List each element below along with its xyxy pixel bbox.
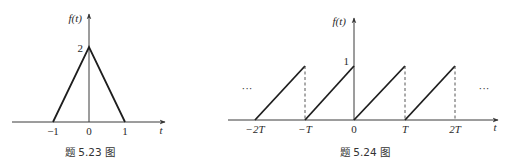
- level-value-label: 1: [344, 55, 350, 67]
- tick-label-T: T: [402, 123, 409, 135]
- tick-label-neg2T: −2T: [245, 123, 265, 135]
- y-axis-label: f(t): [69, 12, 83, 25]
- figures-canvas: f(t) 2 −1 0 1 t 题 5.23 图 f(t) 1 ··· ··· …: [0, 0, 508, 168]
- figure-caption: 题 5.24 图: [340, 146, 390, 158]
- figure-5-23: f(t) 2 −1 0 1 t 题 5.23 图: [12, 12, 165, 158]
- figure-caption: 题 5.23 图: [65, 146, 115, 158]
- sawtooth-ramp: [255, 66, 305, 120]
- tick-label-zero: 0: [351, 123, 357, 135]
- x-axis-label: t: [159, 124, 163, 136]
- tick-label-zero: 0: [86, 125, 92, 137]
- sawtooth-ramp: [305, 66, 354, 120]
- ellipsis-left: ···: [242, 82, 253, 94]
- ellipsis-right: ···: [479, 82, 490, 94]
- tick-label-neg1: −1: [47, 125, 59, 137]
- tick-label-negT: −T: [298, 123, 312, 135]
- sawtooth-ramp: [354, 66, 405, 120]
- figure-5-24: f(t) 1 ··· ··· −2T −T 0 T 2T t 题 5.24 图: [228, 15, 498, 158]
- y-axis-label: f(t): [333, 15, 347, 28]
- sawtooth-ramp: [405, 66, 455, 120]
- tick-label-pos1: 1: [122, 125, 128, 137]
- peak-value-label: 2: [78, 42, 84, 54]
- tick-label-2T: 2T: [449, 123, 462, 135]
- x-axis-label: t: [493, 121, 497, 133]
